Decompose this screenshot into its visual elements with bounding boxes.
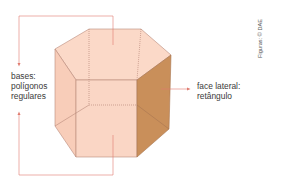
lateral-face-pointer-arrow xyxy=(187,88,191,91)
lateral-face-label-line: retângulo xyxy=(197,91,240,101)
front-face xyxy=(76,80,137,157)
bottom-base-pointer-arrow xyxy=(18,112,21,116)
bases-label-line: bases: xyxy=(11,71,47,81)
figure-credit: Figuras: © DAE xyxy=(257,19,263,58)
bases-label-line: regulares xyxy=(11,91,47,101)
bases-label: bases: polígonos regulares xyxy=(11,71,47,101)
bases-label-line: polígonos xyxy=(11,81,47,91)
top-base-pointer-arrow xyxy=(18,63,21,67)
lateral-face-label-line: face lateral: xyxy=(197,81,240,91)
lateral-face-label: face lateral: retângulo xyxy=(197,81,240,101)
